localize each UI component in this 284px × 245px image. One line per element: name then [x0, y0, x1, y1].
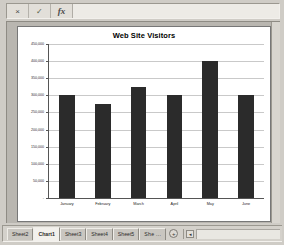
y-axis-label: 150,000 [31, 145, 44, 149]
y-axis-tick [46, 198, 49, 199]
bar-slot: March [121, 44, 157, 198]
sheet-tab-sheet3[interactable]: Sheet3 [60, 228, 86, 240]
sheet-tab-sheet4[interactable]: Sheet4 [86, 228, 112, 240]
x-axis-label: January [49, 202, 85, 206]
bar[interactable] [95, 104, 111, 198]
bar[interactable] [167, 95, 183, 198]
y-axis-label: 400,000 [31, 59, 44, 63]
bar[interactable] [238, 95, 254, 198]
bar-slot: April [156, 44, 192, 198]
divider [183, 229, 184, 239]
chart-sheet-canvas[interactable]: Web Site Visitors 450,000400,000350,0003… [6, 21, 280, 223]
sheet-tab-she[interactable]: She ... [139, 228, 166, 240]
y-axis-label: 100,000 [31, 162, 44, 166]
y-axis-label: 200,000 [31, 128, 44, 132]
bar-slot: June [228, 44, 264, 198]
x-axis-label: March [121, 202, 157, 206]
bar-slot: February [85, 44, 121, 198]
y-axis-label: 250,000 [31, 110, 44, 114]
vertical-scrollbar[interactable] [271, 22, 280, 223]
plot-axes: 450,000400,000350,000300,000250,000200,0… [48, 44, 264, 199]
y-axis-label: 350,000 [31, 76, 44, 80]
sheet-tab-sheet2[interactable]: Sheet2 [7, 228, 33, 240]
x-axis-label: February [85, 202, 121, 206]
tab-scroll-left-icon[interactable]: ◂ [186, 230, 194, 238]
cancel-icon[interactable]: × [7, 4, 28, 18]
x-axis-label: April [156, 202, 192, 206]
formula-bar: × ✓ fx [6, 3, 280, 19]
status-field [196, 229, 280, 239]
bar-series[interactable]: JanuaryFebruaryMarchAprilMayJune [49, 44, 264, 198]
sheet-tab-sheet5[interactable]: Sheet5 [113, 228, 139, 240]
sheet-tab-chart1[interactable]: Chart1 [33, 227, 59, 241]
bar-slot: May [192, 44, 228, 198]
insert-function-icon[interactable]: fx [51, 4, 72, 18]
y-axis-label: - [43, 196, 44, 200]
sheet-tab-bar[interactable]: Sheet2Chart1Sheet3Sheet4Sheet5She ... + … [2, 225, 282, 242]
add-sheet-icon[interactable]: + [169, 229, 178, 238]
plot-area[interactable]: 450,000400,000350,000300,000250,000200,0… [48, 44, 264, 199]
bar[interactable] [59, 95, 75, 198]
chart-title: Web Site Visitors [18, 31, 270, 40]
chart-area[interactable]: Web Site Visitors 450,000400,000350,0003… [17, 26, 271, 222]
check-icon[interactable]: ✓ [29, 4, 50, 18]
sheet-tabs: Sheet2Chart1Sheet3Sheet4Sheet5She ... [7, 227, 166, 241]
formula-input[interactable] [72, 4, 279, 18]
x-axis-label: May [192, 202, 228, 206]
y-axis-label: 50,000 [33, 179, 44, 183]
excel-chart-sheet-window: × ✓ fx Web Site Visitors 450,000400,0003… [0, 0, 284, 245]
y-axis-label: 300,000 [31, 93, 44, 97]
bar[interactable] [202, 61, 218, 198]
bar-slot: January [49, 44, 85, 198]
y-axis-label: 450,000 [31, 42, 44, 46]
x-axis-label: June [228, 202, 264, 206]
bar[interactable] [131, 87, 147, 198]
